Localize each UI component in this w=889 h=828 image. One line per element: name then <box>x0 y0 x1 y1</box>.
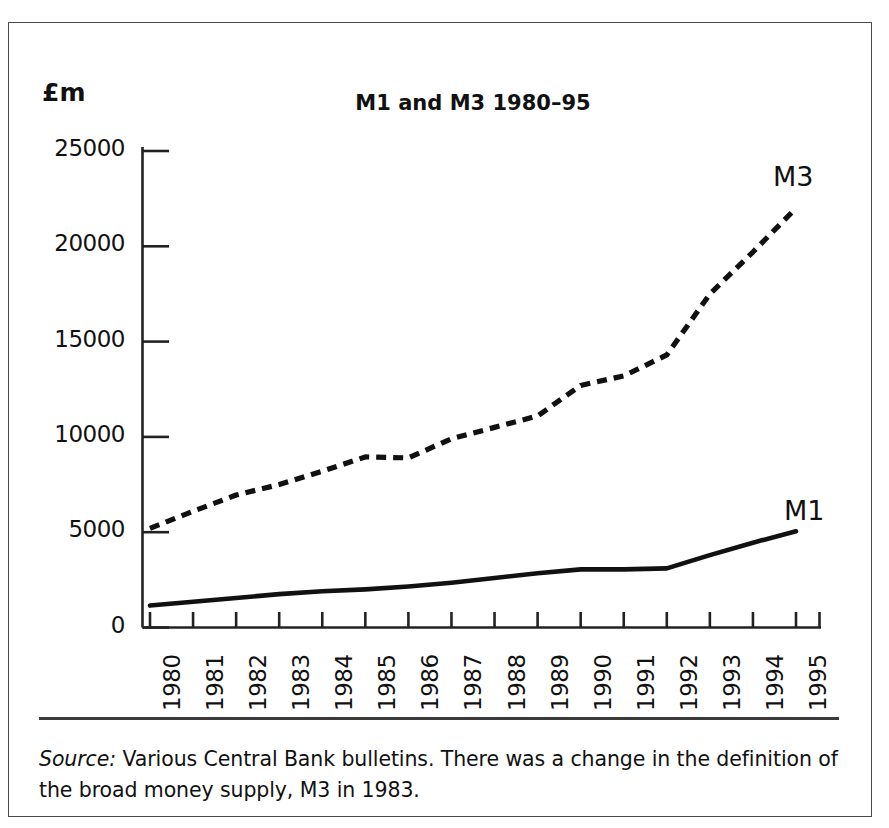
x-axis-tick-label: 1992 <box>676 654 702 711</box>
y-axis-tick-label: 20000 <box>29 230 125 256</box>
x-axis-tick-label: 1991 <box>633 654 659 711</box>
y-axis-tick-label: 15000 <box>29 326 125 352</box>
source-body: Various Central Bank bulletins. There wa… <box>39 747 838 802</box>
y-axis-tick-label: 10000 <box>29 421 125 447</box>
x-axis-tick-label: 1987 <box>460 654 486 711</box>
y-axis-ticks <box>143 151 170 628</box>
x-axis-tick-label: 1983 <box>288 654 314 711</box>
x-axis-tick-label: 1986 <box>417 654 443 711</box>
x-axis-tick-label: 1980 <box>159 654 185 711</box>
series-line-m3 <box>150 208 796 528</box>
x-axis-tick-label: 1982 <box>245 654 271 711</box>
x-axis-tick-label: 1989 <box>547 654 573 711</box>
source-divider-rule <box>39 717 839 720</box>
x-axis-tick-label: 1993 <box>719 654 745 711</box>
x-axis-tick-label: 1985 <box>374 654 400 711</box>
y-axis-tick-label: 0 <box>29 612 125 638</box>
source-prefix: Source: <box>39 747 116 771</box>
y-axis-tick-label: 5000 <box>29 516 125 542</box>
figure-frame: £m M1 and M3 1980–95 0500010000150002000… <box>8 22 872 817</box>
series-label-m3: M3 <box>773 161 813 192</box>
x-axis-ticks <box>150 612 796 628</box>
x-axis-tick-label: 1981 <box>202 654 228 711</box>
series-label-m1: M1 <box>784 495 824 526</box>
x-axis-tick-label: 1994 <box>762 654 788 711</box>
series-line-m1 <box>150 531 796 605</box>
chart-area: £m M1 and M3 1980–95 0500010000150002000… <box>9 23 871 713</box>
x-axis-tick-label: 1984 <box>331 654 357 711</box>
y-axis-tick-label: 25000 <box>29 135 125 161</box>
line-chart-plot <box>9 23 871 713</box>
x-axis-tick-label: 1990 <box>590 654 616 711</box>
axes <box>143 147 822 628</box>
x-axis-tick-label: 1988 <box>504 654 530 711</box>
source-note-block: Source: Various Central Bank bulletins. … <box>39 717 839 806</box>
source-note-text: Source: Various Central Bank bulletins. … <box>39 744 839 806</box>
data-series <box>150 208 796 605</box>
x-axis-tick-label: 1995 <box>805 654 831 711</box>
